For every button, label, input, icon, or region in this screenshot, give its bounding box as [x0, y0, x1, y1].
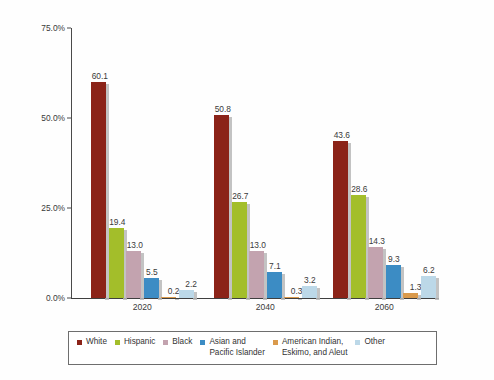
bar-value-label: 6.2: [423, 265, 435, 275]
bar[interactable]: 0.2: [161, 297, 176, 298]
bar[interactable]: 13.0: [249, 251, 264, 298]
bar[interactable]: 43.6: [333, 141, 348, 298]
bar-group: 60.119.413.05.50.22.22020: [91, 28, 199, 298]
bar[interactable]: 1.3: [403, 293, 418, 298]
bar-fill: [144, 278, 159, 298]
bar-value-label: 19.4: [109, 217, 125, 227]
legend-item[interactable]: White: [77, 337, 107, 348]
bar-fill: [126, 251, 141, 298]
bar-fill: [161, 297, 176, 298]
y-axis-tick-label: 75.0%: [41, 23, 65, 33]
legend-item-label: Black: [172, 337, 192, 348]
y-axis-tick-mark: [67, 28, 71, 29]
bar-value-label: 7.1: [269, 261, 281, 271]
bar-value-label: 13.0: [127, 240, 143, 250]
bar-fill: [267, 272, 282, 298]
y-axis-tick-mark: [67, 208, 71, 209]
bar-shadow: [175, 299, 179, 300]
bar[interactable]: 50.8: [214, 115, 229, 298]
bar-fill: [232, 202, 247, 298]
bar[interactable]: 26.7: [232, 202, 247, 298]
x-axis-group-label: 2060: [375, 302, 394, 312]
bar[interactable]: 60.1: [91, 82, 106, 298]
legend-swatch-icon: [273, 340, 278, 345]
bar-chart: Percentage of Total Population 0.0%25.0%…: [0, 0, 494, 380]
y-axis-tick-label: 50.0%: [41, 113, 65, 123]
bar[interactable]: 19.4: [109, 228, 124, 298]
legend-item-label: Other: [364, 337, 384, 348]
bar-value-label: 43.6: [334, 130, 350, 140]
bar[interactable]: 13.0: [126, 251, 141, 298]
bar-fill: [284, 297, 299, 298]
bar-fill: [403, 293, 418, 298]
bar[interactable]: 0.3: [284, 297, 299, 298]
legend-item[interactable]: Other: [355, 337, 384, 348]
y-axis-tick-label: 0.0%: [46, 293, 65, 303]
legend-swatch-icon: [163, 340, 168, 345]
legend-swatch-icon: [200, 340, 205, 345]
bar-value-label: 26.7: [232, 191, 248, 201]
x-axis-group-label: 2020: [133, 302, 152, 312]
legend-item-label: Hispanic: [124, 337, 155, 348]
bar-value-label: 50.8: [215, 104, 231, 114]
bar-fill: [214, 115, 229, 298]
bar-fill: [302, 286, 317, 298]
plot-area: 0.0%25.0%50.0%75.0% 60.119.413.05.50.22.…: [71, 28, 439, 298]
chart-legend: WhiteHispanicBlackAsian and Pacific Isla…: [68, 331, 437, 365]
bar-fill: [179, 290, 194, 298]
bar-fill: [249, 251, 264, 298]
bar-value-label: 3.2: [304, 275, 316, 285]
bar-value-label: 2.2: [185, 279, 197, 289]
legend-item[interactable]: Black: [163, 337, 192, 348]
bar-value-label: 5.5: [146, 267, 158, 277]
bar-value-label: 60.1: [92, 71, 108, 81]
bar[interactable]: 14.3: [368, 247, 383, 298]
bar-group: 50.826.713.07.10.33.22040: [214, 28, 322, 298]
x-axis-group-label: 2040: [256, 302, 275, 312]
bar-value-label: 14.3: [369, 236, 385, 246]
legend-swatch-icon: [355, 340, 360, 345]
legend-item[interactable]: American Indian, Eskimo, and Aleut: [273, 337, 348, 358]
bar-value-label: 28.6: [351, 184, 367, 194]
bar[interactable]: 5.5: [144, 278, 159, 298]
bar-fill: [368, 247, 383, 298]
legend-swatch-icon: [77, 340, 82, 345]
bar-fill: [91, 82, 106, 298]
y-axis-tick-label: 25.0%: [41, 203, 65, 213]
y-axis-tick-mark: [67, 298, 71, 299]
bar-fill: [333, 141, 348, 298]
bar[interactable]: 2.2: [179, 290, 194, 298]
bar[interactable]: 7.1: [267, 272, 282, 298]
legend-item[interactable]: Hispanic: [115, 337, 155, 348]
bar-fill: [421, 276, 436, 298]
legend-item-label: American Indian, Eskimo, and Aleut: [282, 337, 348, 358]
legend-item[interactable]: Asian and Pacific Islander: [200, 337, 265, 358]
bar[interactable]: 9.3: [386, 265, 401, 298]
bar-group: 43.628.614.39.31.36.22060: [333, 28, 441, 298]
y-axis-tick-mark: [67, 118, 71, 119]
bar[interactable]: 6.2: [421, 276, 436, 298]
bar-value-label: 9.3: [388, 254, 400, 264]
legend-item-label: Asian and Pacific Islander: [209, 337, 265, 358]
bar[interactable]: 28.6: [351, 195, 366, 298]
bar-fill: [351, 195, 366, 298]
bar-value-label: 13.0: [250, 240, 266, 250]
bar-fill: [109, 228, 124, 298]
bar-shadow: [298, 299, 302, 300]
y-axis-line: [71, 28, 72, 298]
legend-item-label: White: [86, 337, 107, 348]
bar[interactable]: 3.2: [302, 286, 317, 298]
legend-swatch-icon: [115, 340, 120, 345]
bar-fill: [386, 265, 401, 298]
